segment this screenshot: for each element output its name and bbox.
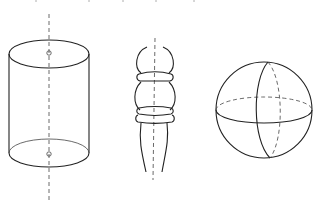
spindle-figure xyxy=(135,38,175,180)
meridian-back xyxy=(268,62,280,158)
equator-back xyxy=(216,97,312,110)
solids-of-revolution-diagram xyxy=(0,0,327,210)
spindle-axis xyxy=(153,38,155,180)
equator-front xyxy=(216,110,312,123)
meridian-front xyxy=(256,62,270,158)
cylinder-figure xyxy=(9,14,89,200)
clipped-text-marks xyxy=(36,0,194,2)
sphere-figure xyxy=(216,62,312,158)
sphere-outline xyxy=(216,62,312,158)
